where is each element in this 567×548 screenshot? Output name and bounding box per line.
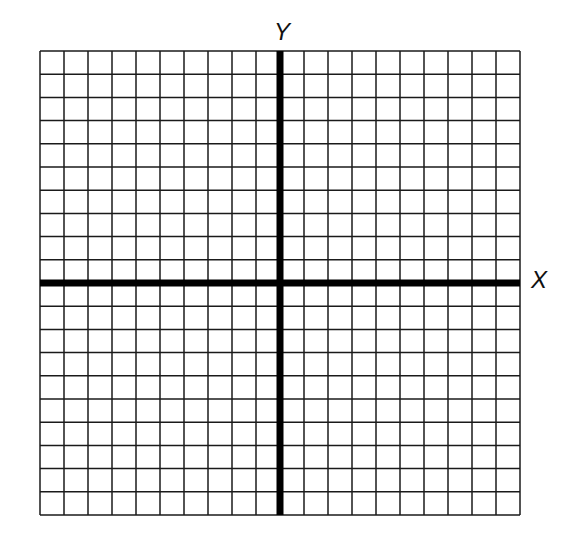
x-axis-label: X (531, 266, 547, 294)
coordinate-plane (0, 0, 567, 548)
y-axis-label: Y (274, 18, 290, 46)
